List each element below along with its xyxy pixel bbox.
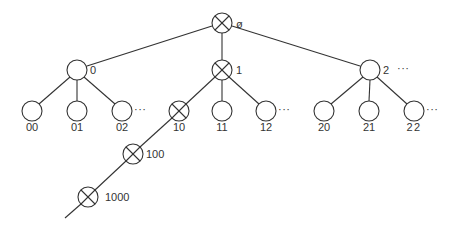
node-label-10: 10: [173, 121, 185, 133]
node-1000: 1000: [78, 187, 129, 207]
node-0: 0: [67, 60, 96, 80]
node-label-0: 0: [90, 64, 96, 76]
node-100: 100: [123, 144, 164, 164]
node-20: 20: [314, 101, 334, 133]
node-label-root: ø: [236, 18, 243, 30]
node-label-1: 1: [236, 64, 242, 76]
node-22: 22 ···: [404, 101, 439, 133]
node-label-01: 01: [71, 121, 83, 133]
edge-2-22: [377, 77, 407, 104]
edge-1-10: [186, 77, 215, 104]
node-12: 12 ···: [256, 101, 291, 133]
node-label-12: 12: [260, 121, 272, 133]
edge-2-20: [331, 77, 363, 104]
node-root: ø: [212, 13, 243, 33]
ellipsis-icon: ···: [134, 103, 147, 115]
node-11: 11: [212, 101, 232, 133]
node-00: 00: [22, 101, 42, 133]
node-10: 10: [169, 101, 189, 133]
node-01: 01: [67, 101, 87, 133]
node-21: 21: [359, 101, 379, 133]
node-label-22: 22: [406, 121, 421, 133]
edge-0-00: [39, 77, 70, 104]
node-label-1000: 1000: [105, 191, 129, 203]
node-02: 02 ···: [112, 101, 147, 133]
edge-10-100: [140, 118, 172, 147]
edge-root-2: [232, 26, 360, 66]
ellipsis-icon: ···: [397, 62, 410, 74]
edge-100-1000: [95, 161, 126, 190]
node-1: 1: [212, 60, 242, 80]
node-label-02: 02: [116, 121, 128, 133]
edge-0-02: [84, 77, 115, 104]
tree-diagram: ø 0 1 2 ··· 00 01 02 ··· 10 11: [0, 0, 463, 227]
node-label-2: 2: [383, 64, 389, 76]
ellipsis-icon: ···: [426, 103, 439, 115]
node-label-11: 11: [216, 121, 227, 133]
edge-2-21: [369, 80, 370, 101]
edge-root-0: [87, 26, 212, 66]
node-label-21: 21: [363, 121, 375, 133]
node-2: 2 ···: [360, 60, 410, 80]
edge-1-12: [229, 77, 259, 104]
node-label-00: 00: [26, 121, 38, 133]
node-label-100: 100: [146, 148, 164, 160]
node-label-20: 20: [318, 121, 330, 133]
ellipsis-icon: ···: [278, 103, 291, 115]
edge-1000-continuation: [65, 204, 81, 218]
